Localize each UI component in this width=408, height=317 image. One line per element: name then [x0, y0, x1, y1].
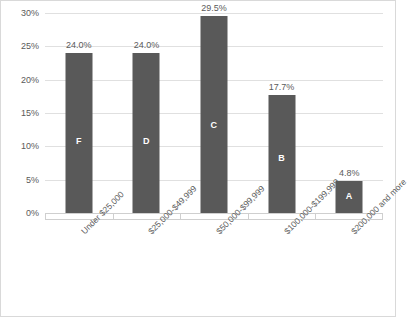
x-axis-tick	[248, 213, 249, 219]
bar-letter-label: B	[278, 153, 285, 163]
y-axis-tick-label: 0%	[5, 208, 39, 218]
bar-value-label: 24.0%	[134, 40, 160, 50]
bar-slot: F24.0%	[45, 13, 113, 213]
bar-value-label: 17.7%	[269, 82, 295, 92]
bar[interactable]	[133, 53, 160, 213]
bar-slot: D24.0%	[113, 13, 181, 213]
y-axis-tick-label: 15%	[5, 108, 39, 118]
bar-letter-label: D	[143, 136, 150, 146]
bar-letter-label: C	[211, 120, 218, 130]
x-axis-tick	[45, 213, 46, 219]
bar-slot: B17.7%	[248, 13, 316, 213]
x-axis-tick	[113, 213, 114, 219]
y-axis-tick-label: 25%	[5, 41, 39, 51]
x-axis-tick	[382, 213, 383, 219]
bar-value-label: 4.8%	[339, 168, 360, 178]
bar-letter-label: F	[76, 136, 82, 146]
x-axis-tick	[315, 213, 316, 219]
bar-value-label: 24.0%	[66, 40, 92, 50]
bar-letter-label: A	[346, 191, 353, 201]
y-axis-tick-label: 10%	[5, 141, 39, 151]
bar[interactable]	[65, 53, 92, 213]
x-axis-tick	[180, 213, 181, 219]
bar[interactable]	[200, 16, 227, 213]
x-axis-labels: Under $25,000$25,000-$49,999$50,000-$99,…	[45, 225, 383, 315]
y-axis-tick-label: 20%	[5, 75, 39, 85]
bar-value-label: 29.5%	[201, 3, 227, 13]
bar-slot: A4.8%	[315, 13, 383, 213]
y-axis-tick-label: 30%	[5, 8, 39, 18]
y-axis-tick-label: 5%	[5, 175, 39, 185]
